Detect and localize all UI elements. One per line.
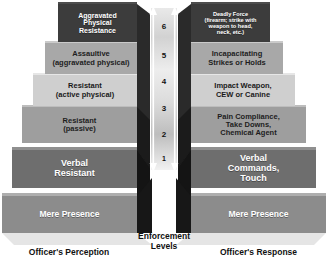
perception-stage-2: VerbalResistant: [12, 150, 137, 188]
enforcement-level-4: 4: [150, 77, 178, 86]
enforcement-level-6: 6: [150, 22, 178, 31]
officers-response-caption: Officer's Response: [191, 248, 326, 258]
enforcement-level-5: 5: [150, 51, 178, 60]
enforcement-level-numbers: 6 5 4 3 2 1: [150, 8, 178, 168]
perception-stage-5: Assaultive(aggravated physical): [45, 43, 137, 74]
officers-perception-caption: Officer's Perception: [4, 248, 134, 258]
use-of-force-continuum-diagram: 6 5 4 3 2 1 AggravatedPhysicalResistance…: [0, 0, 328, 267]
enforcement-level-1: 1: [150, 155, 178, 162]
response-stage-4: Impact Weapon,CEW or Canine: [191, 75, 295, 106]
response-stage-3: Pain Compliance,Take Downs,Chemical Agen…: [191, 107, 306, 143]
perception-stage-6: AggravatedPhysicalResistance: [58, 4, 137, 42]
response-stage-6: Deadly Force(firearm; strike withweapon …: [191, 4, 270, 42]
enforcement-level-2: 2: [150, 130, 178, 139]
response-stage-2: VerbalCommands,Touch: [191, 150, 316, 188]
response-stage-1: Mere Presence: [191, 196, 326, 233]
perception-stage-1: Mere Presence: [2, 196, 137, 233]
response-stage-5: IncapacitatingStrikes or Holds: [191, 43, 283, 74]
perception-stage-4: Resistant(active physical): [33, 75, 137, 106]
perception-stage-3: Resistant(passive): [22, 107, 137, 143]
enforcement-level-3: 3: [150, 104, 178, 113]
